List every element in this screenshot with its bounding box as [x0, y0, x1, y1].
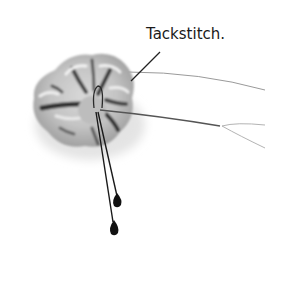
flower-illustration	[0, 0, 283, 285]
wire-fork-upper	[222, 124, 265, 126]
stamen-head-lower	[110, 220, 119, 235]
leader-line	[131, 52, 160, 81]
annotation-label: Tackstitch.	[146, 25, 225, 43]
wire-upper	[128, 72, 265, 90]
stamen-head-upper	[113, 193, 122, 207]
wire-fork-lower	[222, 126, 265, 148]
